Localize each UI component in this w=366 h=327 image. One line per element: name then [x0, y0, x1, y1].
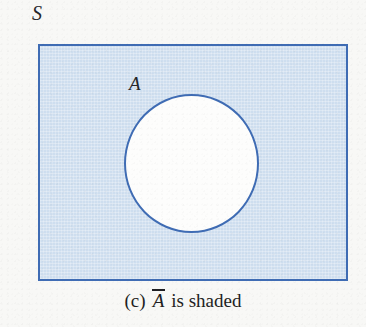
set-a-circle	[124, 94, 259, 233]
caption-tail-text: is shaded	[171, 290, 241, 311]
caption-index: (c)	[125, 290, 146, 311]
overline-bar	[152, 289, 166, 291]
figure-caption: (c)Ais shaded	[0, 290, 366, 312]
caption-complement-symbol: A	[152, 290, 166, 312]
set-a-label: A	[129, 74, 141, 93]
universal-set-label: S	[32, 3, 42, 23]
caption-symbol-letter: A	[153, 290, 165, 311]
venn-diagram-figure: S A (c)Ais shaded	[0, 0, 366, 327]
